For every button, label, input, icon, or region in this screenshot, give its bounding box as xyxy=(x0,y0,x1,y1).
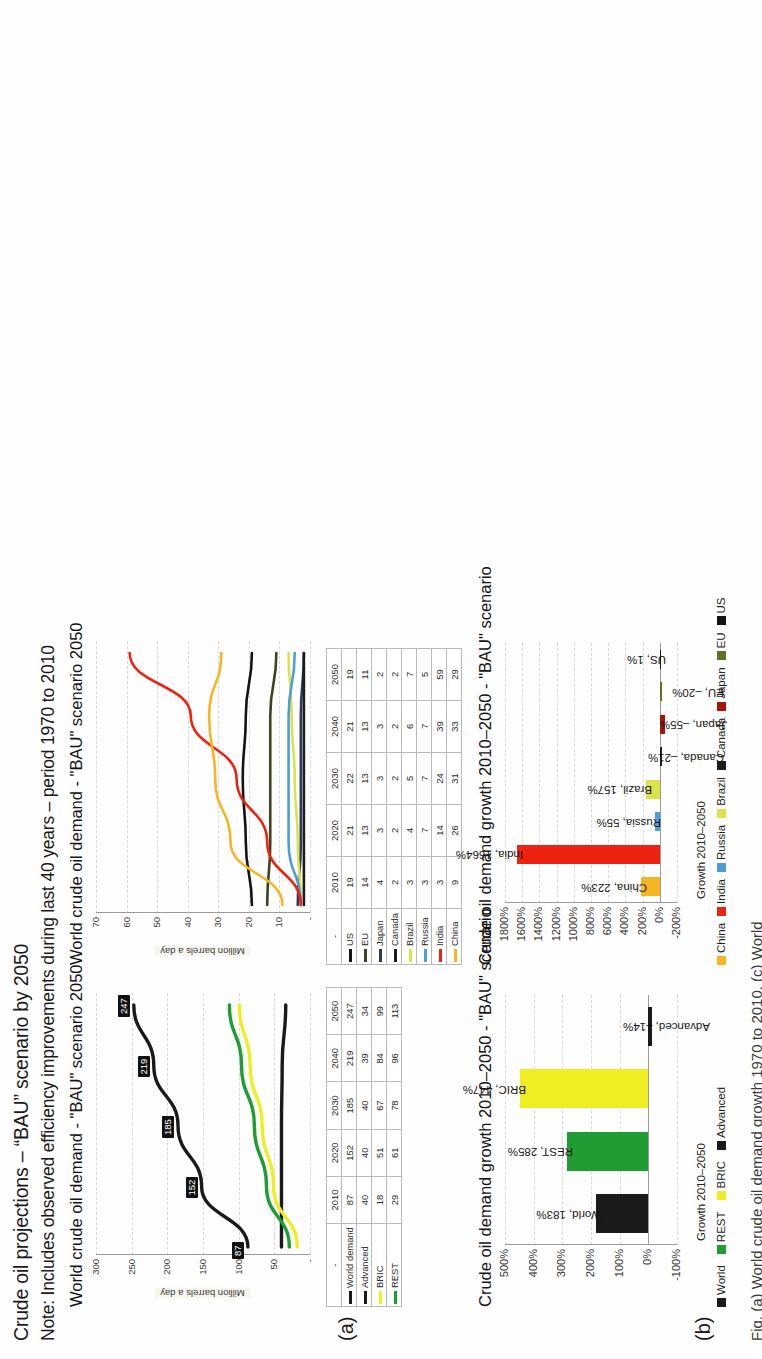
table-cell: 40 xyxy=(357,1082,372,1129)
legend-label: EU xyxy=(715,632,727,648)
table-cell: 33 xyxy=(447,701,462,753)
bar-rest xyxy=(567,1132,649,1171)
table-row-header: India xyxy=(432,909,447,965)
table-cell: 61 xyxy=(387,1129,402,1176)
bar-india xyxy=(517,845,660,864)
legend-item-rest: REST xyxy=(715,1212,727,1255)
table-column-header: 2050 xyxy=(327,988,342,1035)
table-row: BRIC1851678499 xyxy=(372,988,387,1307)
legend-color-swatch xyxy=(717,1141,726,1150)
legend-color-swatch xyxy=(717,1298,726,1307)
line-series-eu xyxy=(267,653,276,905)
series-color-swatch xyxy=(394,1291,397,1304)
legend-color-swatch xyxy=(717,616,726,625)
table-row-header: Japan xyxy=(372,909,387,965)
value-axis-tick: 300% xyxy=(555,1249,567,1295)
value-axis-tick: 200% xyxy=(636,907,648,953)
table-row-header: BRIC xyxy=(372,1224,387,1307)
table-row-header: Russia xyxy=(417,909,432,965)
table-row-label: World demand xyxy=(344,1227,355,1288)
bar-data-label: China, 223% xyxy=(581,882,647,894)
legend-item-eu: EU xyxy=(715,632,727,660)
figure-panels: (a) World crude oil demand - "BAU" scena… xyxy=(67,16,727,1341)
table-row-label: BRIC xyxy=(374,1266,385,1288)
value-axis-tick: 100% xyxy=(613,1249,625,1295)
table-cell: 113 xyxy=(387,988,402,1035)
table-cell: 14 xyxy=(432,805,447,857)
legend-item-russia: Russia xyxy=(715,825,727,872)
data-point-label: 247 xyxy=(118,995,130,1017)
legend-color-swatch xyxy=(717,651,726,660)
table-row: Russia37775 xyxy=(417,649,432,965)
bar-data-label: BRIC, 447% xyxy=(463,1084,526,1096)
data-point-label: 152 xyxy=(186,1177,198,1199)
table-cell: 31 xyxy=(447,753,462,805)
legend-item-us: US xyxy=(715,597,727,625)
table-row: Advanced4040403934 xyxy=(357,988,372,1307)
table-cell: 4 xyxy=(372,857,387,909)
gridline xyxy=(557,643,558,903)
table-cell: 13 xyxy=(357,805,372,857)
bar-data-label: Japan, –55% xyxy=(659,719,726,731)
chart-c-container: Crude oil demand growth 2010–2050 - "BAU… xyxy=(476,987,727,1307)
table-cell: 7 xyxy=(417,701,432,753)
bar-data-label: EU, –20% xyxy=(672,687,724,699)
chart-a-container: World crude oil demand - "BAU" scenario … xyxy=(67,987,402,1307)
legend-item-india: India xyxy=(715,879,727,916)
chart-c-title: Crude oil demand growth 2010–2050 - "BAU… xyxy=(476,987,495,1307)
chart-d-legend: ChinaIndiaRussiaBrazilCanadaJapanEUUS xyxy=(715,635,727,965)
bar-eu xyxy=(660,682,662,701)
table-cell: 3 xyxy=(372,701,387,753)
table-cell: 2 xyxy=(387,805,402,857)
table-row-header: World demand xyxy=(342,1224,357,1307)
table-row: Japan43332 xyxy=(372,649,387,965)
value-axis-tick: 0% xyxy=(641,1249,653,1295)
table-row-label: US xyxy=(344,933,355,946)
table-cell: 5 xyxy=(417,649,432,701)
panel-a-label: (a) xyxy=(67,1307,358,1341)
table-cell: 13 xyxy=(357,701,372,753)
table-cell: 96 xyxy=(387,1035,402,1082)
table-row-label: REST xyxy=(389,1263,400,1288)
table-cell: 59 xyxy=(432,649,447,701)
table-cell: 4 xyxy=(402,805,417,857)
gridline xyxy=(534,995,535,1245)
table-row-label: China xyxy=(449,922,460,947)
table-row-label: Brazil xyxy=(404,923,415,946)
gridline xyxy=(574,643,575,903)
value-axis-tick: 1000% xyxy=(567,907,579,953)
table-cell: 39 xyxy=(357,1035,372,1082)
table-cell: 22 xyxy=(342,753,357,805)
bar-world xyxy=(596,1194,648,1233)
legend-label: China xyxy=(715,923,727,953)
table-row-header: Brazil xyxy=(402,909,417,965)
table-corner-cell: - xyxy=(327,909,342,965)
table-row-header: REST xyxy=(387,1224,402,1307)
chart-b-container: World crude oil demand - "BAU" scenario … xyxy=(67,635,462,965)
table-cell: 2 xyxy=(387,857,402,909)
legend-color-swatch xyxy=(717,1192,726,1201)
category-axis-line xyxy=(505,1244,677,1245)
table-column-header: 2030 xyxy=(327,753,342,805)
bar-data-label: Advanced, –14% xyxy=(623,1021,710,1033)
category-axis-line xyxy=(505,902,677,903)
series-color-swatch xyxy=(364,1291,367,1304)
bar-data-label: India, 1664% xyxy=(456,849,523,861)
table-cell: 3 xyxy=(372,805,387,857)
value-axis-tick: 600% xyxy=(601,907,613,953)
legend-color-swatch xyxy=(717,809,726,818)
table-cell: 19 xyxy=(342,857,357,909)
table-column-header: 2020 xyxy=(327,805,342,857)
table-cell: 185 xyxy=(342,1082,357,1129)
table-b-container: -20102020203020402050US1921222119EU14131… xyxy=(326,635,462,965)
table-cell: 7 xyxy=(402,649,417,701)
table-row: EU1413131311 xyxy=(357,649,372,965)
legend-item-advanced: Advanced xyxy=(715,1087,727,1150)
gridline xyxy=(522,643,523,903)
legend-item-china: China xyxy=(715,923,727,965)
table-cell: 40 xyxy=(357,1176,372,1223)
value-axis-tick: 400% xyxy=(527,1249,539,1295)
data-point-label: 219 xyxy=(138,1056,150,1078)
table-cell: 2 xyxy=(387,701,402,753)
